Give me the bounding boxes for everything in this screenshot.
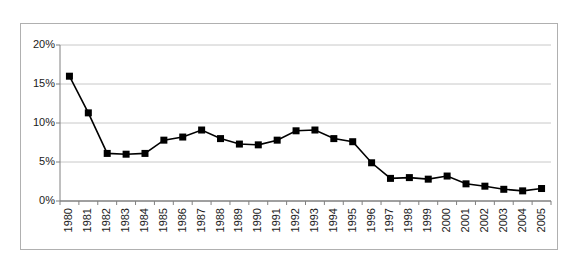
- y-axis-tick-label: 20%: [21, 39, 55, 50]
- data-point-1995: [349, 138, 356, 145]
- y-axis-ticks: [56, 45, 60, 201]
- chart-container: 0%5%10%15%20% 19801981198219831984198519…: [0, 0, 578, 261]
- data-point-1997: [387, 175, 394, 182]
- data-point-1985: [160, 137, 167, 144]
- data-point-2004: [519, 187, 526, 194]
- data-point-1981: [85, 109, 92, 116]
- data-point-1999: [425, 176, 432, 183]
- x-axis-tick-label: 2000: [441, 208, 452, 232]
- chart-plot-frame: 0%5%10%15%20% 19801981198219831984198519…: [20, 23, 558, 250]
- y-axis-tick-label: 5%: [21, 156, 55, 167]
- x-axis-tick-label: 1983: [120, 208, 131, 232]
- x-axis-tick-label: 2001: [460, 208, 471, 232]
- data-line-series-1: [69, 76, 541, 191]
- data-point-1986: [179, 134, 186, 141]
- y-axis-tick-label: 15%: [21, 78, 55, 89]
- x-axis-tick-label: 2002: [479, 208, 490, 232]
- data-point-1996: [368, 159, 375, 166]
- data-point-1990: [255, 141, 262, 148]
- data-point-1991: [274, 137, 281, 144]
- x-axis-tick-label: 1997: [384, 208, 395, 232]
- x-axis-tick-label: 1998: [403, 208, 414, 232]
- data-point-2005: [538, 185, 545, 192]
- data-point-1998: [406, 174, 413, 181]
- data-point-1992: [293, 127, 300, 134]
- gridlines: [60, 45, 551, 201]
- data-point-2000: [444, 173, 451, 180]
- data-point-2001: [463, 180, 470, 187]
- x-axis-tick-label: 1991: [271, 208, 282, 232]
- x-axis-ticks: [60, 201, 551, 205]
- x-axis-tick-label: 1980: [63, 208, 74, 232]
- data-point-1988: [217, 135, 224, 142]
- data-point-2003: [500, 186, 507, 193]
- x-axis-tick-label: 1982: [101, 208, 112, 232]
- x-axis-tick-label: 1993: [309, 208, 320, 232]
- x-axis-tick-label: 1987: [196, 208, 207, 232]
- data-point-2002: [481, 183, 488, 190]
- x-axis-tick-label: 1989: [233, 208, 244, 232]
- data-point-1994: [330, 135, 337, 142]
- data-markers: [66, 73, 545, 195]
- x-axis-tick-label: 2005: [536, 208, 547, 232]
- data-point-1980: [66, 73, 73, 80]
- data-point-1987: [198, 127, 205, 134]
- x-axis-tick-label: 1994: [328, 208, 339, 232]
- x-axis-tick-label: 1995: [347, 208, 358, 232]
- x-axis-tick-label: 1990: [252, 208, 263, 232]
- x-axis-tick-label: 1999: [422, 208, 433, 232]
- x-axis-tick-label: 1988: [215, 208, 226, 232]
- data-point-1989: [236, 141, 243, 148]
- x-axis-tick-label: 1996: [366, 208, 377, 232]
- x-axis-tick-label: 1992: [290, 208, 301, 232]
- x-axis-tick-label: 2004: [517, 208, 528, 232]
- y-axis-tick-label: 0%: [21, 195, 55, 206]
- data-point-1983: [123, 151, 130, 158]
- data-point-1984: [141, 150, 148, 157]
- x-axis-tick-label: 1981: [82, 208, 93, 232]
- y-axis-tick-label: 10%: [21, 117, 55, 128]
- x-axis-tick-label: 1984: [139, 208, 150, 232]
- x-axis-tick-label: 1986: [177, 208, 188, 232]
- data-point-1982: [104, 150, 111, 157]
- data-point-1993: [311, 127, 318, 134]
- x-axis-tick-label: 2003: [498, 208, 509, 232]
- x-axis-tick-label: 1985: [158, 208, 169, 232]
